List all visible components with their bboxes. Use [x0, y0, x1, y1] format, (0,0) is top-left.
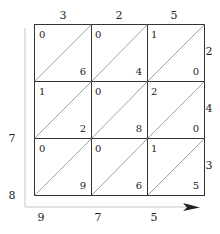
- cell-ones-digit: 6: [76, 67, 86, 77]
- cell-tens-digit: 1: [39, 87, 45, 97]
- cell-ones-digit: 6: [132, 181, 142, 191]
- multiplier-digit: 4: [202, 103, 216, 114]
- lattice-drawing: [0, 0, 220, 234]
- cell-ones-digit: 9: [76, 181, 86, 191]
- cell-ones-digit: 0: [189, 67, 199, 77]
- cell-tens-digit: 0: [95, 30, 101, 40]
- cell-tens-digit: 0: [95, 87, 101, 97]
- cell-ones-digit: 0: [189, 124, 199, 134]
- cell-tens-digit: 2: [151, 87, 157, 97]
- multiplicand-digit: 3: [56, 10, 70, 21]
- cell-ones-digit: 2: [76, 124, 86, 134]
- multiplicand-digit: 5: [167, 10, 181, 21]
- cell-ones-digit: 4: [132, 67, 142, 77]
- result-digit-bottom: 7: [91, 212, 105, 223]
- cell-tens-digit: 1: [151, 30, 157, 40]
- cell-tens-digit: 0: [39, 30, 45, 40]
- cell-tens-digit: 0: [39, 144, 45, 154]
- cell-ones-digit: 5: [189, 181, 199, 191]
- result-digit-left: 8: [5, 190, 19, 201]
- result-digit-bottom: 5: [147, 212, 161, 223]
- cell-ones-digit: 8: [132, 124, 142, 134]
- lattice-diagonals: [35, 25, 205, 196]
- multiplicand-digit: 2: [112, 10, 126, 21]
- result-digit-bottom: 9: [34, 212, 48, 223]
- cell-tens-digit: 0: [95, 144, 101, 154]
- multiplier-digit: 3: [202, 160, 216, 171]
- cell-tens-digit: 1: [151, 144, 157, 154]
- multiplier-digit: 2: [202, 46, 216, 57]
- result-digit-left: 7: [5, 133, 19, 144]
